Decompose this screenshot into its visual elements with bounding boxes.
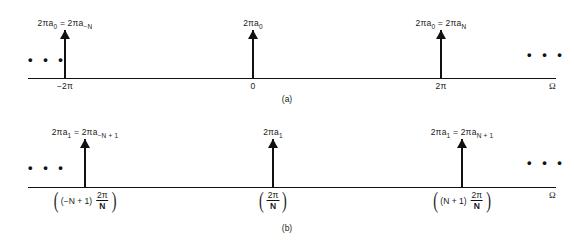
paren-close: ) bbox=[282, 194, 287, 208]
impulse-a-mid bbox=[248, 30, 259, 78]
impulse-b-left bbox=[80, 139, 91, 187]
arrow-stem bbox=[272, 139, 274, 187]
axis-symbol-b: Ω bbox=[549, 190, 556, 200]
impulse-label-a-mid: 2πa0 bbox=[243, 18, 263, 28]
arrow-stem bbox=[461, 139, 463, 187]
tick-label-a-right: 2π bbox=[436, 81, 447, 91]
impulse-label-a-right: 2πa0 = 2πaN bbox=[416, 18, 467, 28]
ellipsis-a-left: • • • bbox=[28, 53, 66, 66]
impulse-label-a-left: 2πa0 = 2πa−N bbox=[38, 18, 93, 28]
axis-line-a bbox=[28, 78, 556, 79]
tick-label-b-right: ( (N + 1) 2π N ) bbox=[432, 191, 493, 211]
axis-symbol-a: Ω bbox=[549, 81, 556, 91]
tick-b-right-coefficient: (N + 1) bbox=[439, 196, 469, 206]
fraction-numerator: 2π bbox=[267, 191, 280, 200]
fraction-denominator: N bbox=[98, 202, 106, 211]
impulse-b-right bbox=[457, 139, 468, 187]
fraction-numerator: 2π bbox=[96, 191, 109, 200]
impulse-label-b-right: 2πa1 = 2πaN + 1 bbox=[431, 127, 494, 137]
tick-label-b-left: ( (−N + 1) 2π N ) bbox=[52, 191, 118, 211]
spectrum-figure: 2πa0 = 2πa−N 2πa0 2πa0 = 2πaN • • • • • … bbox=[0, 0, 574, 244]
ellipsis-b-left: • • • bbox=[28, 161, 66, 174]
paren-close: ) bbox=[112, 194, 117, 208]
impulse-a-right bbox=[436, 30, 447, 78]
arrow-stem bbox=[84, 139, 86, 187]
paren-open: ( bbox=[54, 194, 59, 208]
impulse-label-b-mid: 2πa1 bbox=[263, 127, 283, 137]
fraction-b-right: 2π N bbox=[469, 191, 485, 211]
impulse-label-b-left: 2πa1 = 2πa−N + 1 bbox=[52, 127, 119, 137]
fraction-b-left: 2π N bbox=[95, 191, 111, 211]
tick-label-a-left: −2π bbox=[57, 81, 73, 91]
arrow-stem bbox=[252, 30, 254, 78]
fraction-denominator: N bbox=[473, 202, 481, 211]
axis-line-b bbox=[28, 187, 556, 188]
paren-open: ( bbox=[259, 194, 264, 208]
arrow-stem bbox=[440, 30, 442, 78]
fraction-b-mid: 2π N bbox=[265, 191, 281, 211]
caption-a: (a) bbox=[282, 94, 292, 104]
tick-label-a-mid: 0 bbox=[251, 81, 256, 91]
panel-b: 2πa1 = 2πa−N + 1 2πa1 2πa1 = 2πaN + 1 • … bbox=[0, 118, 574, 244]
panel-a: 2πa0 = 2πa−N 2πa0 2πa0 = 2πaN • • • • • … bbox=[0, 0, 574, 122]
fraction-denominator: N bbox=[269, 202, 277, 211]
ellipsis-b-right: • • • bbox=[527, 156, 565, 169]
paren-close: ) bbox=[486, 194, 491, 208]
tick-b-left-coefficient: (−N + 1) bbox=[60, 196, 95, 206]
impulse-b-mid bbox=[268, 139, 279, 187]
ellipsis-a-right: • • • bbox=[527, 48, 565, 61]
caption-b: (b) bbox=[282, 223, 292, 233]
tick-label-b-mid: ( 2π N ) bbox=[258, 191, 289, 211]
paren-open: ( bbox=[433, 194, 438, 208]
fraction-numerator: 2π bbox=[471, 191, 484, 200]
